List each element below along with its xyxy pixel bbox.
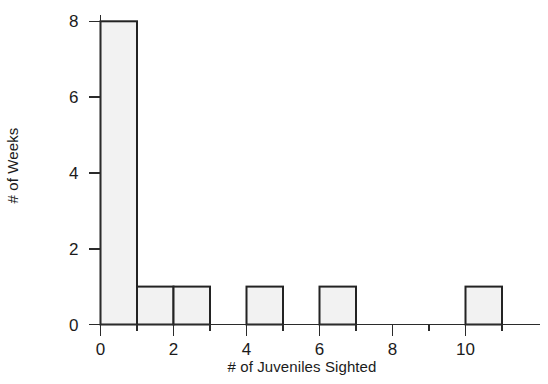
x-axis-tick-label: 4 [242,340,251,359]
axes-group [101,15,541,325]
x-axis-tick-label: 0 [96,340,105,359]
y-axis-tick-label: 4 [69,164,78,183]
histogram-bar [174,287,211,325]
histogram-bar [247,287,284,325]
x-axis-tick-label: 8 [388,340,397,359]
x-axis-tick-label: 2 [169,340,178,359]
bars-group [101,21,503,324]
histogram-bar [466,287,503,325]
y-axis-tick-label: 0 [69,316,78,335]
histogram-bar [137,287,174,325]
x-axis-ticks [101,325,503,336]
y-axis-tick-label: 2 [69,240,78,259]
x-axis-tick-label: 10 [456,340,475,359]
y-axis-ticks [89,21,101,324]
histogram-bar [101,21,138,324]
plot-area: 02468 0246810 [0,0,548,384]
x-axis-tick-label: 6 [315,340,324,359]
histogram-chart: # of Weeks 02468 0246810 # of Juveniles … [0,0,548,384]
y-axis-tick-labels: 02468 [69,12,78,334]
x-axis-label: # of Juveniles Sighted [64,358,540,375]
y-axis-tick-label: 6 [69,88,78,107]
y-axis-tick-label: 8 [69,12,78,31]
histogram-bar [320,287,357,325]
x-axis-tick-labels: 0246810 [96,340,475,359]
